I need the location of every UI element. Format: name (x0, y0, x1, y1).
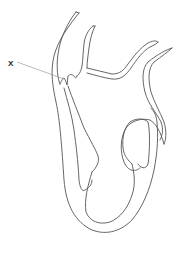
label-x: X (8, 59, 14, 68)
septum-right (68, 86, 99, 172)
outer-heart-wall (52, 13, 157, 232)
atrium-inner (123, 119, 150, 168)
aorta-tip (76, 12, 79, 13)
septum-left (64, 88, 92, 191)
heart-diagram: X (0, 0, 183, 256)
aorta-inner-wall (57, 12, 76, 84)
right-vessel-inner (149, 48, 172, 144)
valve-x (60, 75, 77, 86)
upper-right-branch-top (87, 41, 158, 74)
upper-right-branch-bottom (87, 42, 158, 79)
ventricle-inner (85, 164, 134, 223)
pulmonary-vessel-inner (87, 26, 95, 68)
